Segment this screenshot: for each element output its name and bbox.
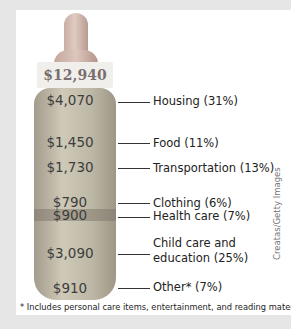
child-care-label: Child care and education (25%)	[153, 236, 248, 266]
leader-line	[118, 102, 150, 103]
transportation-value: $1,730	[34, 159, 106, 175]
photo-credit: Creatas/Getty Images	[272, 167, 282, 260]
housing-value: $4,070	[34, 92, 106, 108]
infographic-panel: $12,940 $4,070 Housing (31%) $1,450 Food…	[16, 10, 291, 315]
health-care-label: Health care (7%)	[153, 209, 250, 224]
child-care-label-line2: education (25%)	[153, 251, 248, 266]
housing-label: Housing (31%)	[153, 94, 238, 109]
other-value: $910	[34, 280, 106, 296]
leader-line	[118, 288, 150, 289]
health-care-value: $900	[34, 207, 106, 223]
transportation-label: Transportation (13%)	[153, 161, 274, 176]
child-care-label-line1: Child care and	[153, 236, 248, 251]
leader-line	[118, 203, 150, 204]
leader-line	[118, 254, 150, 255]
leader-line	[118, 217, 150, 218]
other-label: Other* (7%)	[153, 280, 222, 295]
total-cost: $12,940	[37, 62, 113, 88]
child-care-value: $3,090	[34, 245, 106, 261]
food-label: Food (11%)	[153, 136, 219, 151]
leader-line	[118, 168, 150, 169]
leader-line	[118, 143, 150, 144]
food-value: $1,450	[34, 134, 106, 150]
footnote: * Includes personal care items, entertai…	[20, 302, 291, 312]
